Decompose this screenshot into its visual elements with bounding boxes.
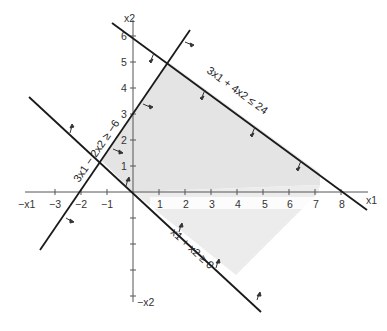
- x-tick-label: 4: [235, 198, 241, 210]
- feasible-region: [102, 62, 320, 192]
- x-tick-label: 2: [183, 198, 189, 210]
- x-tick-label: −1: [101, 198, 113, 210]
- y-neg-axis-label: −x2: [137, 296, 154, 308]
- x-tick-label: 8: [339, 198, 345, 210]
- y-tick-label: 5: [121, 56, 127, 68]
- y-tick-label: 4: [121, 82, 127, 94]
- lp-diagram: −3 −2 −1 1 2 3 4 5 6 7 8 1 2 3 4 5 6 −x1…: [0, 0, 387, 331]
- y-axis-label: x2: [124, 12, 135, 24]
- x-tick-label: 1: [157, 198, 163, 210]
- x-tick-label: 3: [209, 198, 215, 210]
- x-tick-label: −3: [49, 198, 61, 210]
- x-axis-label: x1: [366, 194, 377, 206]
- y-tick-label: 2: [121, 134, 127, 146]
- y-tick-label: 3: [121, 108, 127, 120]
- x-tick-label: −2: [75, 198, 87, 210]
- y-tick-label: 1: [121, 160, 127, 172]
- x-tick-label: 5: [262, 198, 268, 210]
- x-neg-axis-label: −x1: [18, 198, 35, 210]
- x-tick-label: 7: [313, 198, 319, 210]
- x-tick-label: 6: [287, 198, 293, 210]
